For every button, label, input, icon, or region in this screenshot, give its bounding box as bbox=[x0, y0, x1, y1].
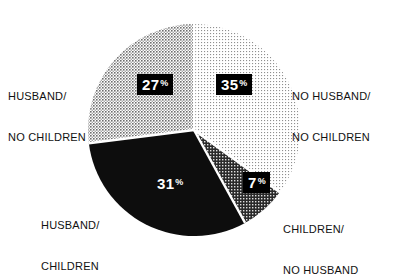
slice-value-number: 35 bbox=[221, 77, 238, 92]
slice-label-line1: CHILDREN/ bbox=[283, 223, 358, 237]
slice-value-number: 27 bbox=[142, 77, 159, 92]
slice-label-no-husband-no-children: NO HUSBAND/ NO CHILDREN bbox=[292, 63, 371, 171]
slice-label-line2: NO CHILDREN bbox=[8, 131, 86, 145]
slice-value-number: 31 bbox=[157, 176, 174, 191]
slice-label-husband-no-children: HUSBAND/ NO CHILDREN bbox=[8, 63, 86, 171]
slice-label-line1: HUSBAND/ bbox=[8, 90, 86, 104]
percent-symbol: % bbox=[239, 79, 247, 88]
slice-label-line2: CHILDREN bbox=[41, 260, 99, 274]
slice-value-no-husband-no-children: 35% bbox=[216, 74, 252, 95]
slice-label-line1: NO HUSBAND/ bbox=[292, 90, 371, 104]
slice-label-children-no-husband: CHILDREN/ NO HUSBAND bbox=[283, 196, 358, 278]
slice-label-line2: NO HUSBAND bbox=[283, 264, 358, 278]
slice-label-husband-children: HUSBAND/ CHILDREN bbox=[41, 192, 99, 278]
slice-value-number: 7 bbox=[248, 175, 257, 190]
slice-value-husband-children: 31% bbox=[154, 173, 187, 194]
percent-symbol: % bbox=[160, 79, 168, 88]
slice-label-line2: NO CHILDREN bbox=[292, 131, 371, 145]
slice-value-children-no-husband: 7% bbox=[243, 172, 270, 193]
percent-symbol: % bbox=[175, 178, 183, 187]
slice-label-line1: HUSBAND/ bbox=[41, 219, 99, 233]
percent-symbol: % bbox=[258, 177, 266, 186]
slice-value-husband-no-children: 27% bbox=[137, 74, 173, 95]
